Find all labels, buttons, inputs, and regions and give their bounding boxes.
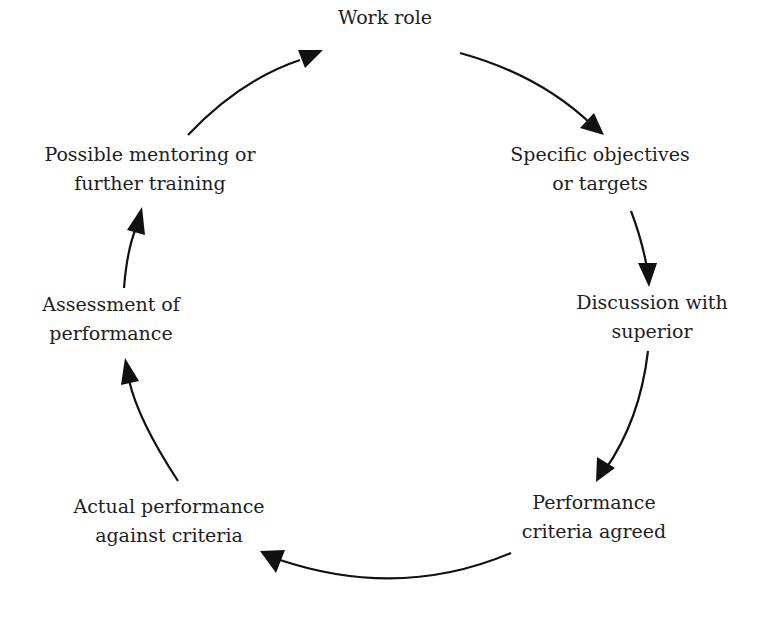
node-label: Discussion with	[576, 288, 727, 317]
arrow-criteria-to-actual	[280, 553, 511, 578]
node-label: Performance	[522, 488, 666, 517]
arrowhead-icon	[638, 263, 657, 287]
node-label: Assessment of	[42, 290, 180, 319]
node-assessment: Assessment of performance	[42, 290, 180, 348]
arrow-actual-to-assessment	[129, 380, 178, 481]
node-work-role: Work role	[338, 3, 432, 32]
arrow-objectives-to-discussion	[631, 211, 647, 268]
node-label: further training	[44, 169, 255, 198]
node-label: against criteria	[73, 521, 264, 550]
node-label: criteria agreed	[522, 517, 666, 546]
node-label: Specific objectives	[510, 140, 689, 169]
node-label: superior	[576, 317, 727, 346]
node-discussion-superior: Discussion with superior	[576, 288, 727, 346]
node-label: Work role	[338, 3, 432, 32]
node-performance-criteria: Performance criteria agreed	[522, 488, 666, 546]
arrow-work-role-to-objectives	[460, 53, 592, 125]
arrowhead-icon	[121, 358, 139, 385]
node-specific-objectives: Specific objectives or targets	[510, 140, 689, 198]
node-label: performance	[42, 319, 180, 348]
performance-cycle-diagram: Work role Specific objectives or targets…	[0, 0, 762, 621]
node-mentoring: Possible mentoring or further training	[44, 140, 255, 198]
arrow-mentoring-to-work-role	[188, 60, 300, 135]
arrow-assessment-to-mentoring	[124, 228, 136, 288]
node-label: Possible mentoring or	[44, 140, 255, 169]
node-label: Actual performance	[73, 492, 264, 521]
arrowhead-icon	[127, 207, 145, 235]
node-label: or targets	[510, 169, 689, 198]
arrow-discussion-to-criteria	[605, 351, 648, 470]
arrowhead-icon	[298, 50, 323, 68]
node-actual-performance: Actual performance against criteria	[73, 492, 264, 550]
